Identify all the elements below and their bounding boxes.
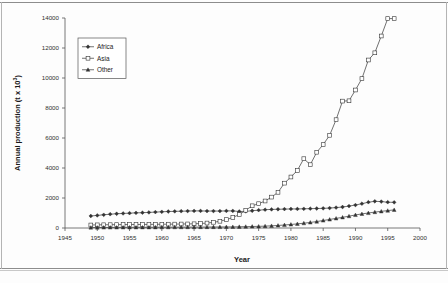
data-point-filled-diamond [128, 211, 132, 215]
marker-diamond [205, 209, 209, 213]
marker-square [205, 221, 209, 225]
line-chart: 02000400060008000100001200014000 1945195… [0, 0, 448, 283]
marker-diamond [199, 209, 203, 213]
marker-diamond [373, 199, 377, 203]
marker-diamond [134, 211, 138, 215]
data-point-open-square [257, 202, 261, 206]
x-axis-title: Year [234, 255, 250, 264]
marker-diamond [334, 206, 338, 210]
data-point-filled-diamond [173, 209, 177, 213]
marker-diamond [321, 206, 325, 210]
marker-square [321, 143, 325, 147]
marker-diamond [108, 212, 112, 216]
data-point-filled-diamond [160, 210, 164, 214]
data-point-open-square [341, 99, 345, 103]
marker-square [366, 58, 370, 62]
data-point-open-square [354, 88, 358, 92]
data-point-filled-diamond [115, 212, 119, 216]
x-tick-label: 2000 [413, 234, 427, 241]
marker-diamond [308, 207, 312, 211]
y-tick-label: 6000 [45, 134, 59, 141]
data-point-open-square [212, 220, 216, 224]
marker-square [373, 51, 377, 55]
data-point-filled-diamond [347, 204, 351, 208]
y-tick-label: 10000 [42, 74, 60, 81]
data-point-filled-diamond [334, 206, 338, 210]
data-point-open-square [321, 143, 325, 147]
data-point-open-square [366, 58, 370, 62]
x-tick-label: 1990 [349, 234, 363, 241]
marker-square [276, 190, 280, 194]
data-point-open-square [347, 99, 351, 103]
data-point-open-square [263, 199, 267, 203]
data-point-open-square [270, 195, 274, 199]
marker-diamond [128, 211, 132, 215]
data-point-open-square [250, 204, 254, 208]
data-point-open-square [244, 208, 248, 212]
x-tick-label: 1985 [316, 234, 330, 241]
data-point-filled-diamond [276, 207, 280, 211]
marker-square [224, 218, 228, 222]
marker-diamond [257, 208, 261, 212]
data-point-open-square [237, 213, 241, 217]
x-tick-label: 1970 [219, 234, 233, 241]
marker-square [263, 199, 267, 203]
x-tick-label: 1960 [155, 234, 169, 241]
data-point-filled-diamond [205, 209, 209, 213]
marker-diamond [250, 209, 254, 213]
marker-square [334, 118, 338, 122]
data-point-filled-diamond [373, 199, 377, 203]
marker-diamond [115, 212, 119, 216]
data-point-filled-diamond [192, 209, 196, 213]
data-point-filled-diamond [283, 207, 287, 211]
data-point-filled-diamond [263, 208, 267, 212]
data-point-filled-diamond [147, 211, 151, 215]
x-tick-label: 1945 [58, 234, 72, 241]
marker-diamond [212, 209, 216, 213]
data-point-filled-diamond [341, 205, 345, 209]
data-point-open-square [218, 219, 222, 223]
marker-square [308, 163, 312, 167]
y-tick-label: 0 [56, 224, 60, 231]
legend-label: Asia [97, 55, 110, 62]
marker-square [283, 181, 287, 185]
marker-square [341, 99, 345, 103]
data-point-filled-diamond [302, 207, 306, 211]
marker-diamond [218, 209, 222, 213]
marker-square [270, 195, 274, 199]
y-axis: 02000400060008000100001200014000 [42, 14, 65, 231]
data-point-filled-diamond [379, 200, 383, 204]
y-tick-label: 2000 [45, 194, 59, 201]
plot-series-group [89, 17, 396, 229]
data-point-open-square [315, 150, 319, 154]
marker-diamond [302, 207, 306, 211]
marker-square [360, 77, 364, 81]
data-point-filled-diamond [134, 211, 138, 215]
x-axis: 1945195019551960196519701975198019851990… [58, 228, 427, 241]
y-tick-label: 4000 [45, 164, 59, 171]
marker-diamond [392, 200, 396, 204]
x-tick-label: 1980 [284, 234, 298, 241]
data-point-filled-diamond [141, 211, 145, 215]
data-point-filled-diamond [121, 212, 125, 216]
data-point-open-square [308, 163, 312, 167]
data-point-open-square [205, 221, 209, 225]
marker-diamond [289, 207, 293, 211]
marker-diamond [141, 211, 145, 215]
data-point-filled-diamond [153, 210, 157, 214]
marker-square [379, 34, 383, 38]
data-point-filled-diamond [315, 207, 319, 211]
data-point-filled-diamond [321, 206, 325, 210]
marker-square [386, 17, 390, 21]
data-point-filled-diamond [212, 209, 216, 213]
data-point-open-square [224, 218, 228, 222]
marker-square [244, 208, 248, 212]
marker-square [86, 56, 90, 60]
marker-diamond [186, 209, 190, 213]
x-tick-label: 1965 [187, 234, 201, 241]
marker-diamond [166, 210, 170, 214]
marker-diamond [102, 213, 106, 217]
data-point-open-square [231, 216, 235, 220]
data-point-open-square [392, 17, 396, 21]
marker-diamond [160, 210, 164, 214]
